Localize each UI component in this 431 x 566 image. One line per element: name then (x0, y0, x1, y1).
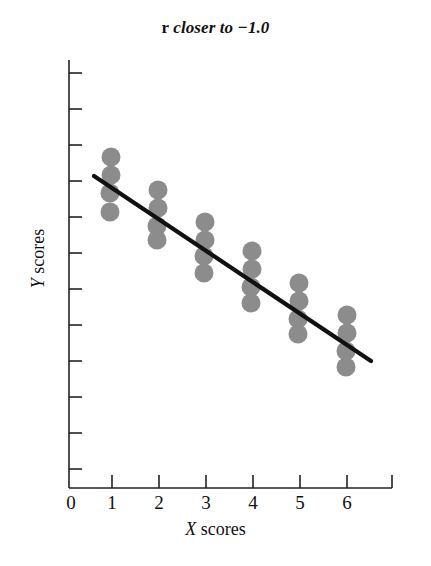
scatter-points (101, 148, 357, 377)
x-axis-ticks (112, 475, 392, 488)
data-point (195, 264, 214, 283)
y-axis-label: Y scores (28, 199, 49, 319)
plot-canvas (0, 0, 431, 566)
data-point (337, 358, 356, 377)
data-point (196, 213, 215, 232)
data-point (149, 181, 168, 200)
data-point (243, 242, 262, 261)
x-axis-label-word: scores (201, 519, 246, 539)
x-tick-label-0: 0 (58, 492, 84, 514)
scatter-plot-figure: r closer to −1.0 (0, 0, 431, 566)
x-tick-label-3: 3 (193, 492, 219, 514)
data-point (242, 294, 261, 313)
data-point (290, 274, 309, 293)
y-axis-ticks (69, 73, 82, 469)
y-axis-label-word: scores (28, 229, 48, 274)
y-axis-label-symbol: Y (28, 278, 48, 288)
x-axis-label-symbol: X (185, 519, 196, 539)
x-tick-label-2: 2 (146, 492, 172, 514)
data-point (289, 325, 308, 344)
data-point (101, 203, 120, 222)
data-point (148, 231, 167, 250)
x-axis-label: X scores (0, 519, 431, 540)
x-tick-label-5: 5 (287, 492, 313, 514)
data-point (102, 148, 121, 167)
x-tick-label-1: 1 (99, 492, 125, 514)
x-tick-label-6: 6 (334, 492, 360, 514)
data-point (338, 306, 357, 325)
x-tick-label-4: 4 (240, 492, 266, 514)
regression-line (94, 176, 371, 361)
